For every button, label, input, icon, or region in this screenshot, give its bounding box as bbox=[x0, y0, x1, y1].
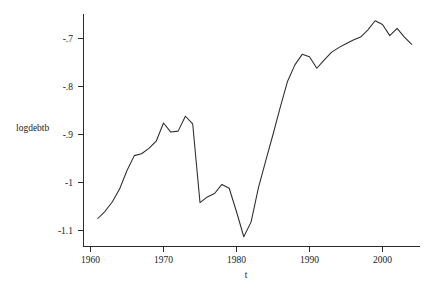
series-line-logdebtb bbox=[98, 21, 412, 237]
y-tick-label: -.7 bbox=[63, 34, 74, 44]
x-tick-label: 1980 bbox=[227, 255, 246, 265]
y-tick-label: -.9 bbox=[63, 130, 74, 140]
x-axis-title: t bbox=[245, 270, 248, 280]
axes-group bbox=[84, 14, 421, 247]
x-tick-labels: 1960 1970 1980 1990 2000 bbox=[81, 255, 392, 265]
line-chart: -.7 -.8 -.9 -1 -1.1 1960 1970 1980 1990 … bbox=[0, 0, 427, 290]
y-tick-label: -1.1 bbox=[58, 226, 73, 236]
x-tick-label: 1960 bbox=[81, 255, 100, 265]
y-axis-title: logdebtb bbox=[16, 123, 49, 133]
x-tick-label: 1970 bbox=[154, 255, 173, 265]
x-tick-marks bbox=[91, 247, 383, 253]
y-tick-marks bbox=[78, 39, 84, 231]
chart-container: -.7 -.8 -.9 -1 -1.1 1960 1970 1980 1990 … bbox=[0, 0, 427, 290]
y-tick-label: -1 bbox=[65, 178, 73, 188]
y-tick-label: -.8 bbox=[63, 82, 74, 92]
y-tick-labels: -.7 -.8 -.9 -1 -1.1 bbox=[58, 34, 73, 236]
x-tick-label: 1990 bbox=[300, 255, 319, 265]
x-tick-label: 2000 bbox=[373, 255, 392, 265]
